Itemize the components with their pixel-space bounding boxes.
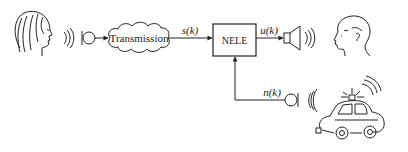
microphone-icon bbox=[285, 93, 298, 107]
nele-label: NELE bbox=[222, 35, 248, 46]
signal-n-label: n(k) bbox=[263, 86, 281, 99]
transmission-label: Transmission bbox=[110, 32, 169, 44]
loudspeaker-icon bbox=[284, 26, 300, 50]
signal-s-label: s(k) bbox=[182, 24, 199, 37]
sound-waves-icon bbox=[305, 28, 315, 48]
sound-waves-icon bbox=[309, 89, 317, 112]
sound-waves-icon bbox=[64, 28, 74, 48]
male-face-icon bbox=[334, 16, 370, 56]
diagram-canvas: Transmission s(k) NELE u(k) n(k) bbox=[0, 0, 408, 152]
microphone-icon bbox=[82, 31, 95, 45]
police-car-icon bbox=[316, 76, 384, 139]
transmission-cloud: Transmission bbox=[109, 22, 170, 52]
female-face-icon bbox=[15, 11, 52, 56]
signal-u-label: u(k) bbox=[260, 24, 278, 37]
nele-block: NELE bbox=[213, 24, 256, 56]
